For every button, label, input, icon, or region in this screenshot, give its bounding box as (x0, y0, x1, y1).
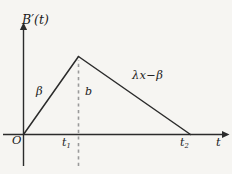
rising-segment (24, 57, 79, 135)
peak-height-label: b (85, 86, 92, 97)
origin-label: O (12, 135, 21, 147)
x-axis-arrowhead (222, 131, 230, 138)
x-tick-label-t2: t2 (180, 137, 189, 149)
x-axis (3, 131, 230, 138)
figure-canvas: B′(t) β b λx−β O t1 t2 t (0, 0, 232, 174)
x-axis-label: t (216, 137, 221, 149)
x-tick-label-t1: t1 (62, 137, 71, 149)
falling-slope-label: λx−β (132, 70, 163, 82)
x-tick-t2-subscript: 2 (184, 142, 188, 150)
x-tick-t1-subscript: 1 (66, 142, 70, 150)
rising-slope-label: β (36, 86, 43, 98)
y-axis-label: B′(t) (22, 14, 49, 27)
